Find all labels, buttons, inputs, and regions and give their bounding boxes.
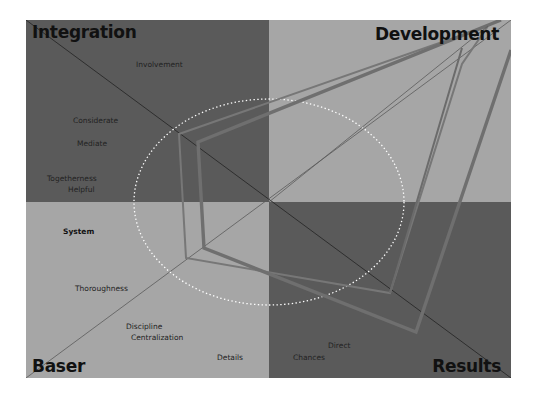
term-helpful: Helpful [68,185,95,194]
term-details: Details [217,353,243,362]
diagram-lines [26,20,511,378]
label-results: Results [432,356,501,376]
term-chances: Chances [293,353,325,362]
term-togetherness: Togetherness [47,174,97,183]
term-direct: Direct [328,341,350,350]
term-centralization: Centralization [131,333,183,342]
ray-development-center [269,26,488,202]
term-thoroughness: Thoroughness [75,284,128,293]
label-integration: Integration [32,22,137,42]
label-baser: Baser [32,356,85,376]
ray-development-inner [390,48,462,293]
term-mediate: Mediate [77,139,107,148]
term-considerate: Considerate [73,116,118,125]
term-discipline: Discipline [126,322,162,331]
profile-outer [198,20,511,332]
quadrant-diagram: Integration Development Baser Results In… [26,20,511,378]
label-development: Development [375,24,499,44]
term-system: System [63,227,94,236]
term-involvement: Involvement [136,60,183,69]
